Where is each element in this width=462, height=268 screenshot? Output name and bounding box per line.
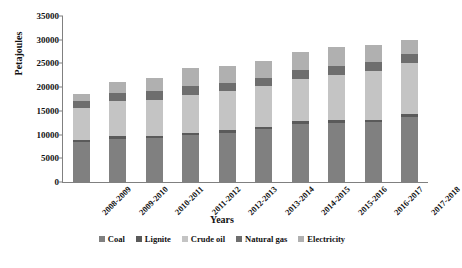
x-tick-label: 2015-2016 [356, 184, 389, 217]
y-tick-mark [59, 87, 63, 88]
x-tick-label: 2014-2015 [319, 184, 352, 217]
y-tick-label: 35000 [37, 11, 60, 21]
legend-swatch-icon [182, 236, 188, 242]
legend-item-crude-oil[interactable]: Crude oil [182, 234, 225, 244]
legend-swatch-icon [99, 236, 105, 242]
bar-segment-electricity[interactable] [146, 78, 163, 91]
stacked-bar[interactable] [365, 45, 382, 182]
bar-column[interactable] [136, 16, 173, 182]
legend-label: Coal [108, 234, 125, 244]
y-tick-mark [59, 16, 63, 17]
stacked-bar[interactable] [219, 66, 236, 182]
bar-segment-natural-gas[interactable] [365, 62, 382, 71]
stacked-bar[interactable] [328, 47, 345, 182]
legend-item-natural-gas[interactable]: Natural gas [236, 234, 287, 244]
legend-label: Lignite [145, 234, 171, 244]
bar-segment-electricity[interactable] [401, 40, 418, 54]
stacked-bar[interactable] [401, 40, 418, 182]
bar-segment-natural-gas[interactable] [255, 78, 272, 86]
stacked-bar[interactable] [292, 52, 309, 182]
legend-item-lignite[interactable]: Lignite [136, 234, 171, 244]
bar-segment-natural-gas[interactable] [73, 101, 90, 108]
bar-segment-crude-oil[interactable] [328, 75, 345, 120]
bar-segment-electricity[interactable] [255, 61, 272, 78]
bar-segment-electricity[interactable] [109, 82, 126, 92]
bar-segment-natural-gas[interactable] [109, 93, 126, 102]
legend-label: Natural gas [245, 234, 287, 244]
x-tick-label: 2013-2014 [283, 184, 316, 217]
x-tick-label: 2017-2018 [429, 184, 462, 217]
bar-segment-natural-gas[interactable] [182, 86, 199, 95]
y-tick-label: 15000 [37, 106, 60, 116]
bar-segment-natural-gas[interactable] [328, 66, 345, 75]
bar-segment-crude-oil[interactable] [73, 108, 90, 140]
bar-segment-crude-oil[interactable] [292, 79, 309, 122]
stacked-bar[interactable] [255, 61, 272, 182]
bar-segment-coal[interactable] [401, 117, 418, 182]
bar-segment-coal[interactable] [255, 129, 272, 182]
bar-segment-crude-oil[interactable] [219, 91, 236, 130]
legend-swatch-icon [236, 236, 242, 242]
bar-segment-electricity[interactable] [365, 45, 382, 62]
legend-swatch-icon [136, 236, 142, 242]
bar-segment-coal[interactable] [292, 124, 309, 182]
bar-column[interactable] [63, 16, 100, 182]
bar-column[interactable] [173, 16, 210, 182]
x-axis-tick-labels: 2008-20092009-20102010-20112011-20122012… [63, 184, 428, 218]
bar-column[interactable] [246, 16, 283, 182]
chart-legend: CoalLigniteCrude oilNatural gasElectrici… [0, 234, 444, 244]
bar-segment-electricity[interactable] [292, 52, 309, 70]
bar-group [63, 16, 428, 182]
y-tick-label: 5000 [41, 153, 59, 163]
bar-segment-electricity[interactable] [219, 66, 236, 83]
legend-swatch-icon [298, 236, 304, 242]
bar-segment-natural-gas[interactable] [219, 83, 236, 91]
bar-segment-crude-oil[interactable] [255, 86, 272, 127]
bar-segment-crude-oil[interactable] [146, 100, 163, 137]
bar-segment-natural-gas[interactable] [146, 91, 163, 100]
bar-column[interactable] [100, 16, 137, 182]
y-tick-label: 10000 [37, 130, 60, 140]
stacked-bar[interactable] [109, 82, 126, 182]
x-tick-label: 2011-2012 [209, 184, 242, 217]
bar-segment-coal[interactable] [219, 133, 236, 182]
bar-column[interactable] [209, 16, 246, 182]
bar-column[interactable] [282, 16, 319, 182]
bar-segment-electricity[interactable] [328, 47, 345, 66]
x-tick-label: 2008-2009 [100, 184, 133, 217]
y-axis-title: Petajoules [13, 8, 24, 100]
bar-segment-crude-oil[interactable] [109, 101, 126, 136]
legend-item-electricity[interactable]: Electricity [298, 234, 345, 244]
bar-segment-crude-oil[interactable] [365, 71, 382, 120]
x-tick-label: 2012-2013 [246, 184, 279, 217]
bar-segment-natural-gas[interactable] [401, 54, 418, 63]
stacked-bar[interactable] [146, 78, 163, 182]
bar-column[interactable] [392, 16, 429, 182]
x-tick-label: 2009-2010 [137, 184, 170, 217]
y-tick-mark [59, 110, 63, 111]
y-tick-mark [59, 158, 63, 159]
y-tick-label: 25000 [37, 58, 60, 68]
bar-segment-electricity[interactable] [73, 94, 90, 101]
bar-segment-coal[interactable] [73, 142, 90, 182]
stacked-bar[interactable] [73, 94, 90, 182]
bar-segment-crude-oil[interactable] [401, 63, 418, 115]
bar-segment-coal[interactable] [146, 138, 163, 182]
bar-segment-natural-gas[interactable] [292, 70, 309, 79]
bar-segment-coal[interactable] [328, 123, 345, 182]
x-axis-title: Years [0, 214, 444, 225]
plot-area: 05000100001500020000250003000035000 [63, 16, 428, 182]
bar-segment-coal[interactable] [182, 135, 199, 182]
stacked-bar[interactable] [182, 68, 199, 182]
legend-item-coal[interactable]: Coal [99, 234, 125, 244]
bar-segment-electricity[interactable] [182, 68, 199, 86]
legend-label: Crude oil [191, 234, 225, 244]
bar-segment-coal[interactable] [365, 122, 382, 182]
bar-segment-crude-oil[interactable] [182, 95, 199, 133]
bar-segment-coal[interactable] [109, 139, 126, 182]
y-tick-label: 20000 [37, 82, 60, 92]
x-tick-label: 2016-2017 [392, 184, 425, 217]
bar-column[interactable] [355, 16, 392, 182]
bar-column[interactable] [319, 16, 356, 182]
